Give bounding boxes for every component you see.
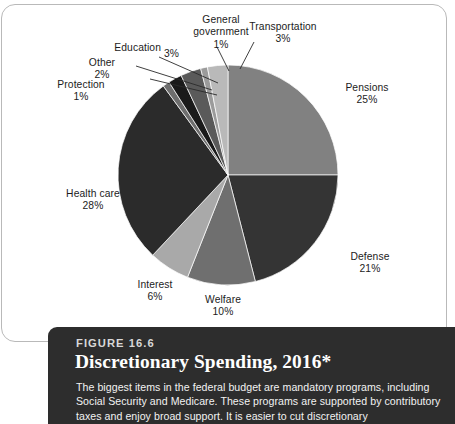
figure-caption-box: FIGURE 16.6 Discretionary Spending, 2016…: [48, 327, 455, 424]
pie-label-interest: Interest 6%: [124, 279, 186, 304]
pie-label-health-care: Health care 28%: [52, 188, 134, 213]
pie-chart: General government 1% Transportation 3% …: [0, 0, 455, 348]
pie-slice-pensions[interactable]: [228, 65, 338, 175]
pie-label-protection: Protection 1%: [45, 79, 117, 104]
figure-title: Discretionary Spending, 2016*: [75, 351, 331, 373]
figure-number: FIGURE 16.6: [76, 337, 155, 349]
pie-label-education: Education: [98, 42, 161, 54]
pie-label-defense: Defense 21%: [337, 251, 403, 276]
pie-label-welfare: Welfare 10%: [191, 294, 255, 319]
pie-label-pensions: Pensions 25%: [330, 82, 404, 107]
pie-slices-group: [118, 65, 338, 285]
pie-label-education-pct: 3%: [164, 48, 194, 60]
figure-description: The biggest items in the federal budget …: [76, 380, 444, 423]
pie-label-transportation: Transportation 3%: [237, 21, 329, 46]
